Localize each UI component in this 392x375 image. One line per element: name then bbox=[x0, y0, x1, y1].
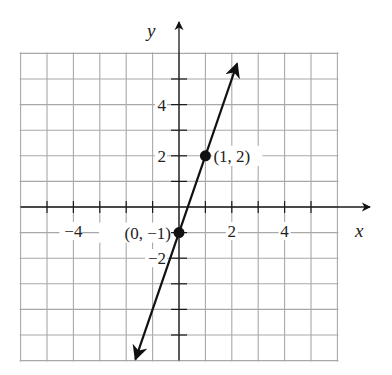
point-label: (0, −1) bbox=[125, 224, 171, 243]
x-tick-label: 2 bbox=[228, 222, 237, 241]
data-point bbox=[174, 227, 185, 238]
y-tick-label: −2 bbox=[148, 249, 166, 268]
x-tick-label: −4 bbox=[64, 222, 83, 241]
line-y-equals-3x-minus-1 bbox=[135, 64, 237, 360]
data-point bbox=[200, 150, 211, 161]
y-axis-label: y bbox=[145, 20, 156, 41]
point-label: (1, 2) bbox=[213, 147, 250, 166]
coordinate-plane: −42442−2 (0, −1)(1, 2) x y bbox=[0, 0, 392, 375]
x-axis-label: x bbox=[354, 220, 364, 241]
y-tick-label: 4 bbox=[158, 96, 167, 115]
graph-line bbox=[135, 64, 237, 360]
x-tick-label: 4 bbox=[280, 222, 289, 241]
data-points: (0, −1)(1, 2) bbox=[99, 146, 262, 243]
y-tick-label: 2 bbox=[158, 147, 167, 166]
